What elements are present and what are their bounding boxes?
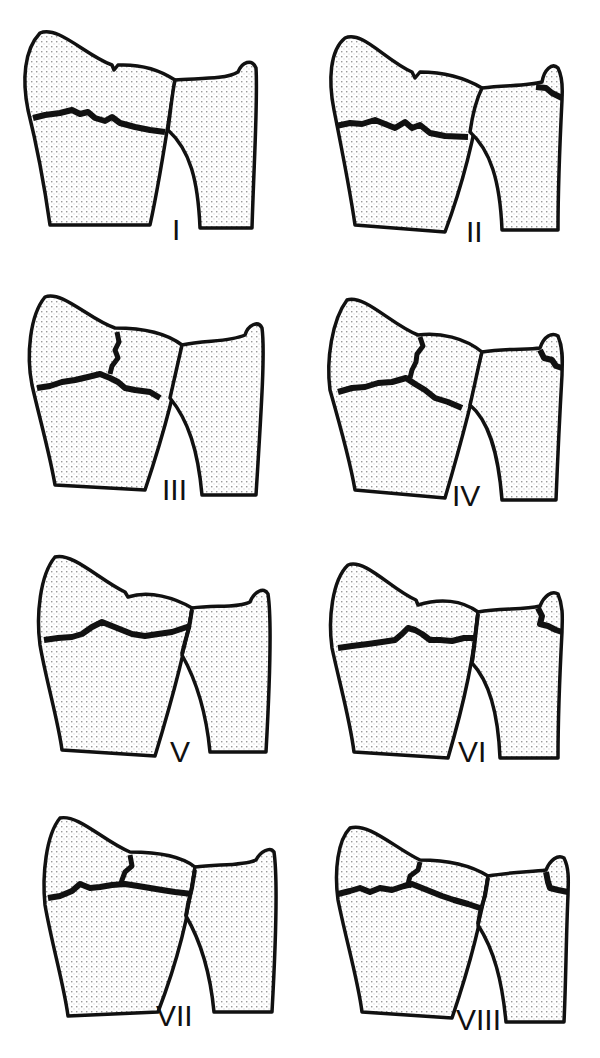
type-label: VII <box>156 999 193 1032</box>
radius-bone <box>329 299 482 498</box>
fracture-classification-figure: I II III IV <box>0 0 600 1058</box>
type-label: VI <box>458 735 486 768</box>
radius-bone <box>39 556 192 756</box>
ulna-bone <box>186 850 276 1012</box>
panel-type-5: V <box>0 530 300 794</box>
panel-type-4: IV <box>300 270 600 534</box>
radius-bone <box>331 564 478 758</box>
panel-type-2: II <box>300 0 600 264</box>
type-label: VIII <box>456 1003 501 1036</box>
type-label: III <box>162 473 187 506</box>
panel-type-3: III <box>0 270 300 534</box>
panel-type-8: VIII <box>300 800 600 1058</box>
wrist-diagram: I <box>0 0 300 264</box>
panel-type-7: VII <box>0 800 300 1058</box>
radius-bone <box>337 827 489 1018</box>
ulna-bone <box>168 62 257 228</box>
radius-bone <box>44 818 195 1016</box>
wrist-diagram: IV <box>300 270 600 534</box>
wrist-diagram: III <box>0 270 300 534</box>
ulna-bone <box>472 593 562 758</box>
wrist-diagram: V <box>0 530 300 794</box>
ulna-bone <box>478 857 568 1022</box>
wrist-diagram: VI <box>300 530 600 794</box>
ulna-bone <box>170 324 263 495</box>
type-label: I <box>172 213 180 246</box>
wrist-diagram: II <box>300 0 600 264</box>
type-label: V <box>170 735 190 768</box>
wrist-diagram: VIII <box>300 800 600 1058</box>
radius-bone <box>29 296 182 490</box>
ulna-bone <box>182 590 270 752</box>
wrist-diagram: VII <box>0 800 300 1058</box>
panel-type-6: VI <box>300 530 600 794</box>
panel-type-1: I <box>0 0 300 264</box>
type-label: IV <box>452 479 480 512</box>
type-label: II <box>466 215 483 248</box>
